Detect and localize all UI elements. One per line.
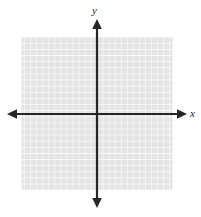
y-axis-top-arrowhead — [92, 19, 102, 29]
x-axis-label: x — [190, 108, 195, 119]
x-axis-left-arrowhead — [7, 109, 17, 119]
coordinate-plane — [0, 0, 201, 217]
y-axis-bottom-arrowhead — [92, 198, 102, 208]
x-axis-right-arrowhead — [177, 109, 187, 119]
y-axis-label: y — [92, 5, 97, 16]
